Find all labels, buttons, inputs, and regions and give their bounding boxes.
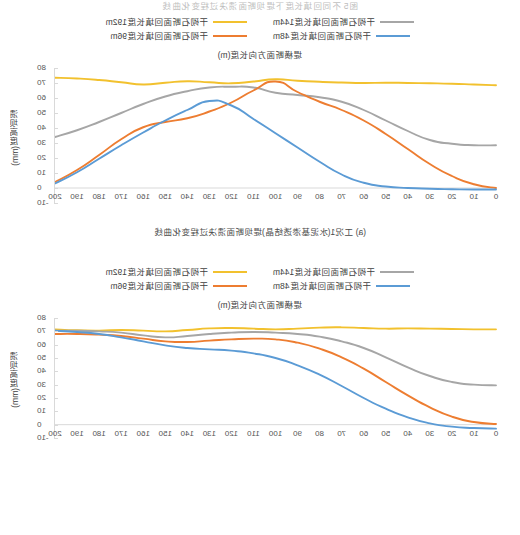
y-tick-label: 70 xyxy=(37,78,46,87)
y-tick-label: 0 xyxy=(37,420,41,429)
x-tick-label: 60 xyxy=(356,429,372,438)
y-tick-mark xyxy=(54,143,58,144)
legend-row-2-b: 干砌石断面回填长度48m 干砌石断面回填长度96m xyxy=(110,282,409,291)
y-tick-label: 40 xyxy=(37,123,46,132)
x-axis-title-a: 堤横断面方向长度(m) xyxy=(218,48,303,60)
series-line-1 xyxy=(55,86,496,145)
y-tick-mark xyxy=(54,173,58,174)
y-axis-line-b xyxy=(54,318,55,438)
legend-swatch-l96-b xyxy=(213,285,247,287)
legend-label-l48: 干砌石断面回填长度48m xyxy=(273,32,371,41)
y-tick-mark xyxy=(54,438,58,439)
legend-swatch-l96 xyxy=(213,35,247,37)
x-tick-label: 30 xyxy=(422,429,438,438)
x-tick-label: 140 xyxy=(179,429,195,438)
legend-figure-b: 干砌石断面回填长度144m 干砌石断面回填长度192m 干砌石断面回填长度48m… xyxy=(0,262,520,310)
x-tick-label: 20 xyxy=(444,192,460,201)
legend-label-l192-b: 干砌石断面回填长度192m xyxy=(106,268,208,277)
y-tick-mark xyxy=(54,385,58,386)
y-tick-label: 50 xyxy=(37,108,46,117)
legend-item-l96-b[interactable]: 干砌石断面回填长度96m xyxy=(110,282,247,291)
legend-item-l144-b[interactable]: 干砌石断面回填长度144m xyxy=(273,268,414,277)
x-tick-label: 130 xyxy=(201,429,217,438)
legend-item-l192[interactable]: 干砌石断面回填长度192m xyxy=(106,18,247,27)
x-tick-label: 80 xyxy=(312,192,328,201)
y-tick-label: 30 xyxy=(37,138,46,147)
figure-a: 干砌石断面回填长度144m 干砌石断面回填长度192m 干砌石断面回填长度48m… xyxy=(0,12,520,262)
y-tick-mark xyxy=(54,128,58,129)
legend-item-l144[interactable]: 干砌石断面回填长度144m xyxy=(273,18,414,27)
y-tick-mark xyxy=(54,398,58,399)
x-tick-label: 140 xyxy=(179,192,195,201)
legend-label-l144: 干砌石断面回填长度144m xyxy=(273,18,375,27)
legend-label-l192: 干砌石断面回填长度192m xyxy=(106,18,208,27)
x-tick-label: 130 xyxy=(201,192,217,201)
x-tick-label: 110 xyxy=(245,429,261,438)
y-tick-mark xyxy=(54,98,58,99)
y-tick-label: 10 xyxy=(37,168,46,177)
x-tick-label: 180 xyxy=(91,192,107,201)
x-tick-label: 20 xyxy=(444,429,460,438)
x-tick-label: 170 xyxy=(113,192,129,201)
legend-label-l96-b: 干砌石断面回填长度96m xyxy=(110,282,208,291)
figure-a-caption: (a) 工况1(水泥基渗透结晶)堤坝断面溃决过程变化曲线 xyxy=(0,225,520,237)
legend-swatch-l144 xyxy=(380,21,414,23)
legend-swatch-l144-b xyxy=(380,271,414,273)
x-tick-label: 200 xyxy=(47,192,63,201)
x-tick-label: 40 xyxy=(400,429,416,438)
x-tick-label: 10 xyxy=(466,192,482,201)
legend-item-l48[interactable]: 干砌石断面回填长度48m xyxy=(273,32,410,41)
y-axis-title-a: 溃坝高度(mm) xyxy=(9,110,21,166)
legend-swatch-l192-b xyxy=(213,271,247,273)
x-tick-label: 90 xyxy=(290,192,306,201)
y-tick-mark xyxy=(54,203,58,204)
plot-area-b: -1001020304050607080 溃坝高度(mm) 0102030405… xyxy=(0,310,520,460)
legend-item-l96[interactable]: 干砌石断面回填长度96m xyxy=(110,32,247,41)
x-tick-label: 10 xyxy=(466,429,482,438)
y-tick-mark xyxy=(54,411,58,412)
y-tick-mark xyxy=(54,425,58,426)
series-line-3 xyxy=(55,331,496,429)
y-tick-label: 60 xyxy=(37,340,46,349)
legend-row-1: 干砌石断面回填长度144m 干砌石断面回填长度192m xyxy=(106,18,415,27)
legend-swatch-l48 xyxy=(376,35,410,37)
x-tick-label: 0 xyxy=(488,192,504,201)
y-tick-label: 20 xyxy=(37,153,46,162)
x-tick-label: 120 xyxy=(223,429,239,438)
series-line-2 xyxy=(55,334,496,424)
x-tick-label: 150 xyxy=(157,192,173,201)
y-tick-mark xyxy=(54,113,58,114)
legend-label-l144-b: 干砌石断面回填长度144m xyxy=(273,268,375,277)
plot-area-a: -1001020304050607080 溃坝高度(mm) 0102030405… xyxy=(0,60,520,225)
y-tick-mark xyxy=(54,158,58,159)
series-line-2 xyxy=(55,81,496,188)
x-tick-label: 0 xyxy=(488,429,504,438)
legend-item-l192-b[interactable]: 干砌石断面回填长度192m xyxy=(106,268,247,277)
x-tick-label: 70 xyxy=(334,192,350,201)
y-tick-label: 60 xyxy=(37,93,46,102)
y-tick-mark xyxy=(54,83,58,84)
y-tick-mark xyxy=(54,345,58,346)
y-tick-label: 0 xyxy=(37,183,41,192)
y-axis-title-b: 溃坝高度(mm) xyxy=(9,352,21,408)
y-tick-mark xyxy=(54,318,58,319)
figure-b: 干砌石断面回填长度144m 干砌石断面回填长度192m 干砌石断面回填长度48m… xyxy=(0,262,520,494)
x-tick-label: 100 xyxy=(268,192,284,201)
legend-label-l48-b: 干砌石断面回填长度48m xyxy=(273,282,371,291)
x-tick-label: 50 xyxy=(378,429,394,438)
legend-figure-a: 干砌石断面回填长度144m 干砌石断面回填长度192m 干砌石断面回填长度48m… xyxy=(0,12,520,60)
y-axis-line-a xyxy=(54,68,55,203)
x-tick-label: 90 xyxy=(290,429,306,438)
legend-swatch-l48-b xyxy=(376,285,410,287)
y-tick-mark xyxy=(54,188,58,189)
x-tick-label: 30 xyxy=(422,192,438,201)
y-tick-mark xyxy=(54,371,58,372)
legend-item-l48-b[interactable]: 干砌石断面回填长度48m xyxy=(273,282,410,291)
x-tick-label: 160 xyxy=(135,192,151,201)
x-tick-label: 150 xyxy=(157,429,173,438)
x-tick-label: 80 xyxy=(312,429,328,438)
x-tick-label: 170 xyxy=(113,429,129,438)
x-tick-label: 40 xyxy=(400,192,416,201)
x-tick-label: 110 xyxy=(245,192,261,201)
x-tick-label: 60 xyxy=(356,192,372,201)
